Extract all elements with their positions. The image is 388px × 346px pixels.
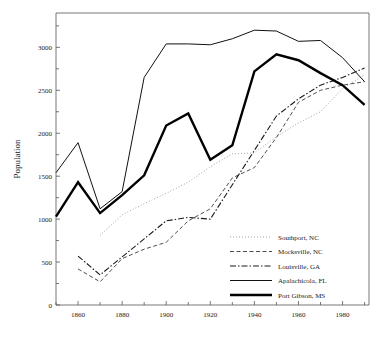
y-axis-tick-label: 1000 [38,216,53,224]
chart-canvas: 1860188019001920194019601980050010001500… [0,0,388,346]
y-axis-tick-label: 2000 [38,130,53,138]
y-axis-tick-label: 2500 [38,87,53,95]
legend-label-5: Port Gibson, MS [278,292,325,300]
x-axis-tick-label: 1920 [203,311,218,319]
legend-label-3: Louisville, GA [278,263,320,271]
y-axis-tick-label: 500 [42,259,53,267]
x-axis-tick-label: 1940 [247,311,262,319]
y-axis-tick-label: 1500 [38,173,53,181]
y-axis-title: Population [12,139,22,179]
population-line-chart: 1860188019001920194019601980050010001500… [0,0,388,346]
x-axis-tick-label: 1900 [159,311,174,319]
legend-label-4: Apalachicola, FL [278,277,327,285]
x-axis-tick-label: 1980 [336,311,351,319]
series-line-apalachicola-fl [56,30,365,209]
series-line-louisville-ga [78,68,365,275]
x-axis-tick-label: 1960 [291,311,306,319]
legend-label-2: Mocksville, NC [278,248,323,256]
y-axis-tick-label: 0 [49,302,53,310]
series-line-port-gibson-ms [56,54,365,216]
x-axis-tick-label: 1880 [115,311,130,319]
x-axis-tick-label: 1860 [71,311,86,319]
y-axis-tick-label: 3000 [38,44,53,52]
legend-label-1: Southport, NC [278,234,319,242]
